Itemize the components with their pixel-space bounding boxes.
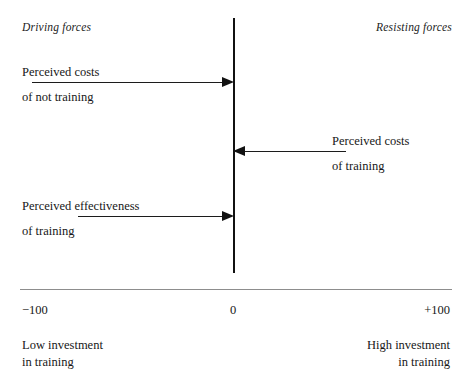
caption-line-2: in training (22, 354, 103, 371)
scale-tick-minus-100: −100 (22, 303, 48, 318)
caption-low-investment: Low investment in training (22, 337, 103, 371)
arrow-head-right-icon (222, 77, 234, 87)
scale-tick-plus-100: +100 (424, 303, 450, 318)
arrow-shaft (32, 82, 223, 83)
force-arrow-perceived-costs-of-not-training (32, 77, 234, 88)
arrow-shaft (244, 151, 346, 152)
arrow-head-left-icon (233, 146, 245, 156)
scale-tick-zero: 0 (230, 303, 236, 318)
caption-high-investment: High investment in training (367, 337, 450, 371)
arrow-head-right-icon (222, 211, 234, 221)
force-label-line-2: of training (332, 154, 409, 179)
caption-line-1: Low investment (22, 338, 103, 352)
force-arrow-perceived-costs-of-training (233, 146, 346, 157)
force-field-diagram: Driving forces Resisting forces Perceive… (0, 0, 467, 388)
driving-forces-heading: Driving forces (22, 21, 91, 33)
arrow-shaft (78, 216, 223, 217)
force-label-line-2: of not training (22, 85, 99, 110)
caption-line-2: in training (367, 354, 450, 371)
resisting-forces-heading: Resisting forces (376, 21, 452, 33)
force-label-line-2: of training (22, 219, 139, 244)
scale-axis-line (20, 289, 452, 290)
caption-line-1: High investment (367, 338, 450, 352)
force-arrow-perceived-effectiveness-of-training (78, 211, 234, 222)
